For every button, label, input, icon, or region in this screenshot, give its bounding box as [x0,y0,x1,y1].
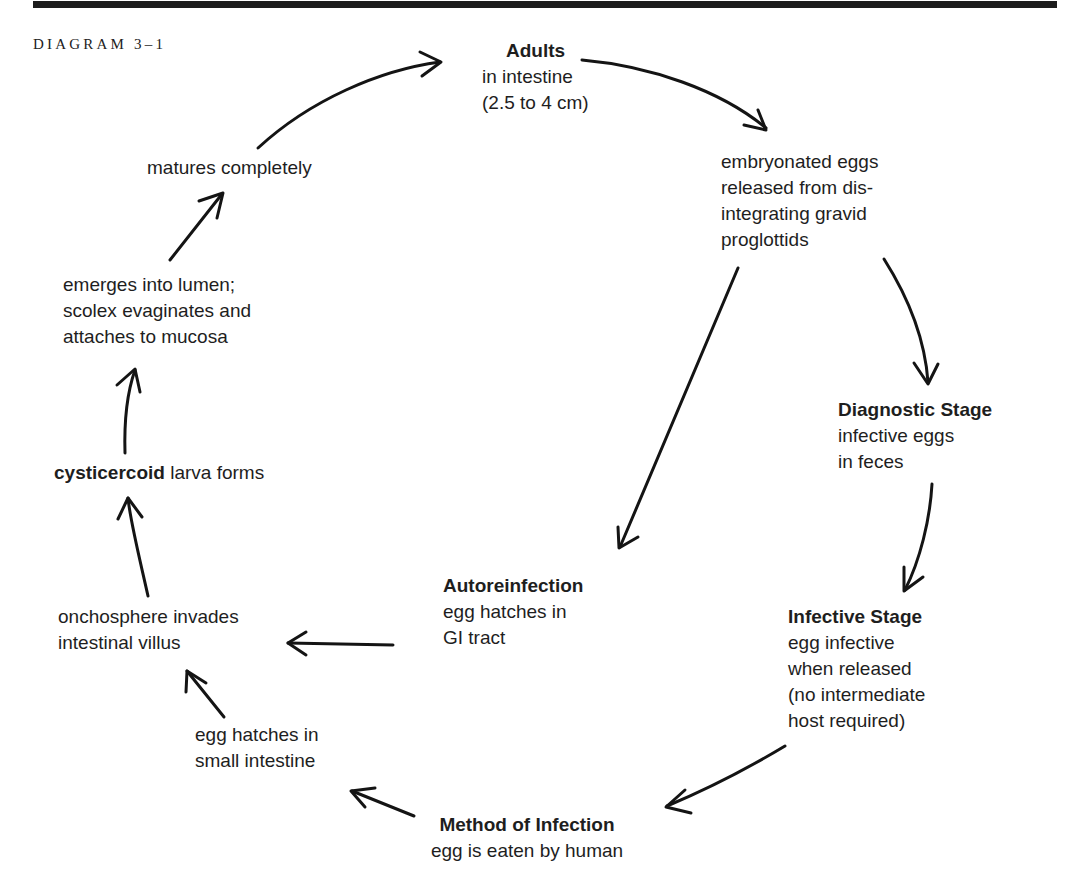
node-infective-line: egg infective [788,630,925,656]
node-adults: Adults in intestine (2.5 to 4 cm) [482,38,589,116]
arrow-emerges-to-matures-icon [170,193,223,260]
node-adults-line: in intestine [482,64,589,90]
node-infective-line: (no intermediate [788,682,925,708]
node-eggs-line: released from dis- [721,175,878,201]
arrow-eggs-to-diagnostic-icon [884,259,938,384]
node-egg-hatches-small-intestine: egg hatches in small intestine [195,722,319,774]
node-eggs-line: proglottids [721,227,878,253]
node-diagnostic-line: infective eggs [838,423,992,449]
node-cysticercoid-bold: cysticercoid [54,462,165,483]
node-onchosphere-line: onchosphere invades [58,604,239,630]
node-emerges-line: scolex evaginates and [63,298,251,324]
node-onchosphere-line: intestinal villus [58,630,239,656]
node-autoreinfection-line: GI tract [443,625,583,651]
node-autoreinfection-title: Autoreinfection [443,573,583,599]
arrow-eggs-to-autoreinfection-icon [618,268,738,548]
node-method-title: Method of Infection [404,812,650,838]
node-infective-line: when released [788,656,925,682]
arrow-adults-to-eggs-icon [582,60,766,130]
arrow-diagnostic-to-infective-icon [904,484,932,591]
arrow-infective-to-method-icon [666,746,785,813]
arrow-egghatch-to-onchosphere-icon [186,671,224,717]
node-eggs-line: embryonated eggs [721,149,878,175]
node-emerges-line: attaches to mucosa [63,324,251,350]
arrow-onchosphere-to-cysticercoid-icon [118,498,148,596]
node-infective-stage: Infective Stage egg infective when relea… [788,604,925,734]
arrow-matures-to-adults-icon [258,52,441,148]
node-cysticercoid-rest: larva forms [165,462,264,483]
node-method-of-infection: Method of Infection egg is eaten by huma… [404,812,650,864]
node-eggs-released: embryonated eggs released from dis- inte… [721,149,878,253]
node-eggs-line: integrating gravid [721,201,878,227]
node-infective-title: Infective Stage [788,604,925,630]
node-diagnostic-line: in feces [838,449,992,475]
node-emerges-line: emerges into lumen; [63,272,251,298]
node-diagnostic-stage: Diagnostic Stage infective eggs in feces [838,397,992,475]
node-cysticercoid: cysticercoid larva forms [54,460,264,486]
node-emerges: emerges into lumen; scolex evaginates an… [63,272,251,350]
node-matures-line: matures completely [147,155,312,181]
node-diagnostic-title: Diagnostic Stage [838,397,992,423]
arrow-cysticercoid-to-emerges-icon [117,369,140,453]
node-egghatch-line: small intestine [195,748,319,774]
arrow-autoreinfection-to-onchosphere-icon [288,632,393,655]
node-autoreinfection-line: egg hatches in [443,599,583,625]
node-matures: matures completely [147,155,312,181]
node-adults-line: (2.5 to 4 cm) [482,90,589,116]
node-infective-line: host required) [788,708,925,734]
node-egghatch-line: egg hatches in [195,722,319,748]
node-autoreinfection: Autoreinfection egg hatches in GI tract [443,573,583,651]
node-adults-title: Adults [482,38,589,64]
node-method-line: egg is eaten by human [404,838,650,864]
node-onchosphere: onchosphere invades intestinal villus [58,604,239,656]
